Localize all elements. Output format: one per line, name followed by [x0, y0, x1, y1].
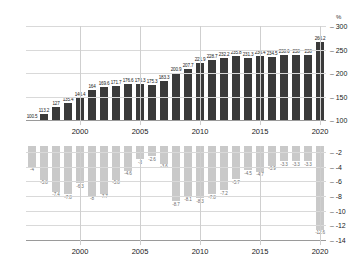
x-axis-tick-label: 2005: [132, 247, 149, 256]
x-axis-tick-guide: [140, 146, 141, 245]
bar-value-label: 183.3: [159, 75, 170, 80]
gridline: [26, 50, 326, 51]
bar: [304, 146, 313, 161]
bar-value-label: 200.9: [171, 67, 182, 72]
y-axis-tick-value: 250: [336, 46, 347, 53]
bar: [268, 146, 277, 166]
bar-value-label: 207.7: [183, 63, 194, 68]
gridline: [26, 240, 326, 241]
y-axis-tick-value: -14: [336, 237, 346, 244]
y-axis-unit-label: %: [336, 14, 341, 20]
x-axis-tick-label: 2020: [312, 247, 329, 256]
bar: [304, 55, 313, 120]
bar-value-label: -8.1: [184, 197, 191, 202]
bar-value-label: 169.6: [99, 81, 110, 86]
x-axis-tick-label: 2005: [132, 127, 149, 136]
y-axis-tick-label: –300: [330, 23, 347, 30]
tick-dash: –: [330, 70, 334, 77]
y-axis-tick-value: -6: [336, 178, 342, 185]
x-axis-tick-guide: [140, 26, 141, 125]
y-axis-tick-label: –100: [330, 117, 347, 124]
tick-dash: –: [330, 237, 334, 244]
tick-dash: –: [330, 163, 334, 170]
bar: [52, 107, 61, 120]
x-axis-tick-label: 2020: [312, 127, 329, 136]
bar: [244, 58, 253, 120]
tick-dash: –: [330, 93, 334, 100]
x-axis-tick-guide: [200, 146, 201, 245]
y-axis-tick-label: –-14: [330, 237, 346, 244]
tick-dash: –: [330, 192, 334, 199]
y-axis-tick-value: -10: [336, 207, 346, 214]
y-axis-tick-label: –250: [330, 46, 347, 53]
bar: [64, 146, 73, 194]
tick-dash: –: [330, 23, 334, 30]
bar: [64, 103, 73, 120]
bar-value-label: 100.5: [27, 114, 38, 119]
x-axis-tick-guide: [260, 26, 261, 125]
bar: [220, 58, 229, 120]
bar-value-label: 228.7: [207, 54, 218, 59]
y-axis-tick-value: 150: [336, 93, 347, 100]
bar: [88, 146, 97, 196]
bar: [148, 85, 157, 120]
y-axis-tick-label: –-10: [330, 207, 346, 214]
tick-dash: –: [330, 207, 334, 214]
bar: [280, 55, 289, 120]
x-axis-tick-label: 2010: [192, 127, 209, 136]
bar-value-label: 164: [88, 84, 95, 89]
gridline: [26, 196, 326, 197]
gridline: [26, 152, 326, 153]
bar-value-label: 113.2: [39, 108, 49, 113]
y-axis-tick-label: –-12: [330, 222, 346, 229]
gridline: [26, 181, 326, 182]
y-axis-tick-label: –200: [330, 70, 347, 77]
bar-value-label: -4: [30, 167, 34, 172]
x-axis-tick-guide: [260, 146, 261, 245]
y-axis-tick-label: –-4: [330, 163, 342, 170]
bar-value-label: -4.6: [124, 171, 131, 176]
bar: [208, 60, 217, 120]
y-axis-tick-value: -12: [336, 222, 346, 229]
bar: [124, 84, 133, 120]
bar-value-label: 176.6: [123, 78, 134, 83]
x-axis-tick-guide: [200, 26, 201, 125]
bar: [28, 146, 37, 167]
y-axis-tick-value: -4: [336, 163, 342, 170]
bar-value-label: 135.4: [63, 97, 74, 102]
x-axis-tick-guide: [320, 26, 321, 125]
y-axis-tick-label: –-6: [330, 178, 342, 185]
y-axis-tick-value: -8: [336, 192, 342, 199]
x-axis-tick-label: 2010: [192, 247, 209, 256]
x-axis-tick-guide: [80, 26, 81, 125]
y-axis-tick-value: 100: [336, 117, 347, 124]
tick-dash: –: [330, 148, 334, 155]
bar: [184, 146, 193, 197]
gridline: [26, 73, 326, 74]
gridline: [26, 225, 326, 226]
gridline: [26, 120, 326, 121]
bar: [100, 87, 109, 120]
bar-value-label: -8.7: [172, 202, 179, 207]
plot-area-debt-to-gdp: 100.5113.2127135.4146.4164169.6171.7176.…: [26, 26, 326, 120]
x-axis-tick-guide: [80, 146, 81, 245]
figure-two-panel-bar-charts: % 100.5113.2127135.4146.4164169.6171.717…: [0, 0, 361, 263]
bar: [280, 146, 289, 161]
chart-panel-budget-balance: -4-5.8-7.4-7.8-6.3-8-7.7-5.8-4.6-3-2.6-3…: [0, 138, 361, 263]
tick-dash: –: [330, 117, 334, 124]
x-axis-tick-label: 2000: [72, 247, 89, 256]
bar-value-label: -4.5: [244, 171, 251, 176]
bar: [292, 146, 301, 161]
bar: [100, 146, 109, 194]
bar-value-label: 127: [52, 101, 59, 106]
bar: [160, 146, 169, 164]
gridline: [26, 26, 326, 27]
y-axis-tick-value: -2: [336, 148, 342, 155]
x-axis-tick-guide: [320, 146, 321, 245]
plot-area-budget-balance: -4-5.8-7.4-7.8-6.3-8-7.7-5.8-4.6-3-2.6-3…: [26, 146, 326, 240]
y-axis-tick-label: –150: [330, 93, 347, 100]
bar-value-label: 235.8: [231, 50, 242, 55]
y-axis-tick-label: –-8: [330, 192, 342, 199]
x-axis-tick-label: 2015: [252, 127, 269, 136]
gridline: [26, 97, 326, 98]
